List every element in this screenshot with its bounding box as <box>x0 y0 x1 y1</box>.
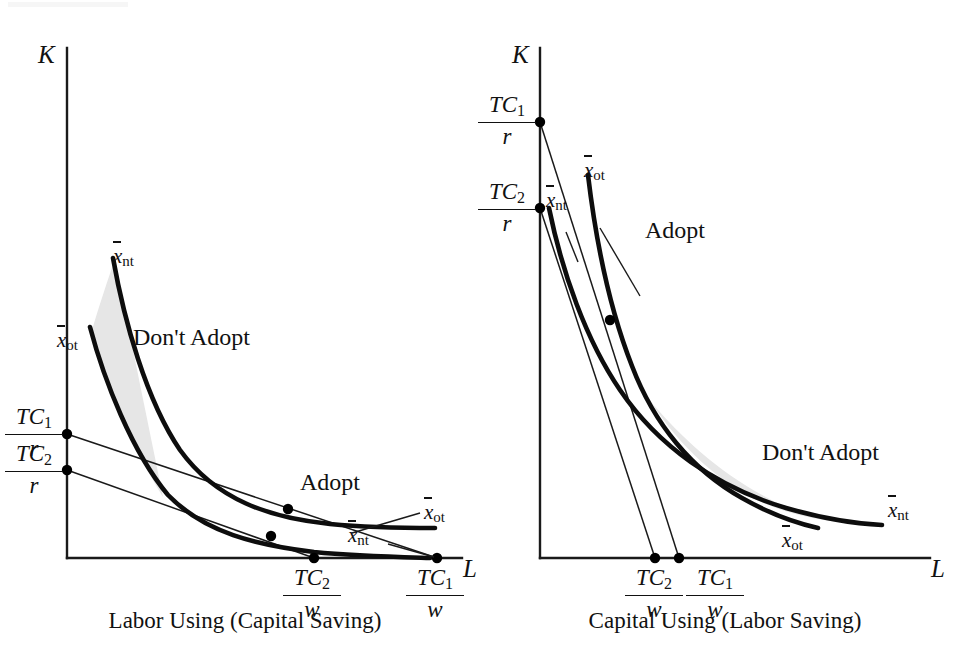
left-panel-caption: Labor Using (Capital Saving) <box>25 608 465 634</box>
right-ytick-tc2-over-r: TC2 r <box>478 180 536 236</box>
right-x-axis-label: L <box>931 556 945 581</box>
right-point-tc2-r <box>535 203 545 213</box>
right-point-tc2-w <box>650 553 660 563</box>
right-curve-label-xnt-lower: xnt <box>888 500 909 523</box>
left-point-tc2-w <box>309 553 319 563</box>
left-curve-label-xnt-lower: xnt <box>348 525 369 548</box>
left-point-tangency-ot <box>266 531 276 541</box>
right-y-axis-label: K <box>512 42 529 67</box>
left-point-tc2-r <box>62 465 72 475</box>
left-dont-adopt-shading <box>92 258 163 497</box>
right-curve-label-xot-upper: xot <box>584 160 605 183</box>
right-point-tc1-r <box>535 117 545 127</box>
right-region-label-adopt: Adopt <box>645 218 705 242</box>
right-point-tangency-ot <box>605 315 615 325</box>
right-point-tc1-w <box>674 553 684 563</box>
left-curve-label-xot-upper: xot <box>57 330 78 353</box>
left-point-tc1-w <box>432 553 442 563</box>
left-curve-label-xot-lower: xot <box>424 502 445 525</box>
right-curve-label-xnt-upper: xnt <box>546 190 567 213</box>
right-panel-graph <box>535 48 930 563</box>
right-region-label-dont-adopt: Don't Adopt <box>762 440 879 464</box>
left-region-label-adopt: Adopt <box>300 470 360 494</box>
left-point-tangency-nt <box>283 504 293 514</box>
left-point-tc1-r <box>62 429 72 439</box>
right-panel-caption: Capital Using (Labor Saving) <box>505 608 945 634</box>
right-isocost-tc1 <box>540 122 679 558</box>
left-y-axis-label: K <box>38 42 55 67</box>
left-region-label-dont-adopt: Don't Adopt <box>133 325 250 349</box>
left-panel-graph <box>62 48 462 563</box>
figure-container: K L TC1 r TC2 r TC2 w TC1 w xnt xot xot … <box>0 0 967 648</box>
left-x-axis-label: L <box>463 556 477 581</box>
left-ytick-tc2-over-r: TC2 r <box>5 442 63 498</box>
right-ytick-tc1-over-r: TC1 r <box>478 93 536 149</box>
left-curve-label-xnt-upper: xnt <box>113 246 134 269</box>
right-curve-label-xot-lower: xot <box>782 530 803 553</box>
